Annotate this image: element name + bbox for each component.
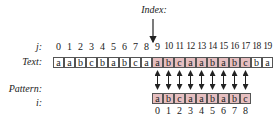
arrows-layer xyxy=(0,0,280,118)
